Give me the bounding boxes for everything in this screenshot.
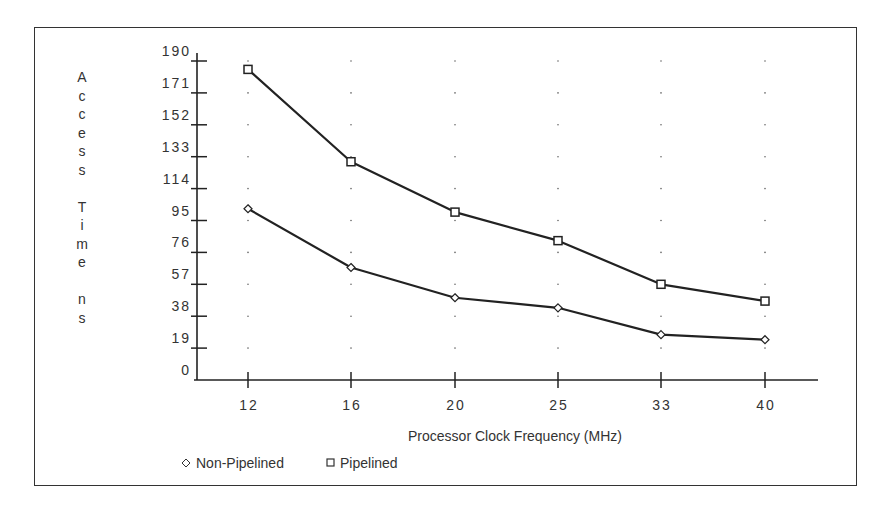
x-axis-ticks: 121620253340 xyxy=(239,372,776,413)
grid-dot xyxy=(247,220,249,222)
x-tick-label: 20 xyxy=(446,397,466,413)
y-label-char: s xyxy=(79,162,86,178)
grid-dot xyxy=(660,188,662,190)
grid-dot xyxy=(350,347,352,349)
grid-dot xyxy=(350,60,352,62)
grid-dot xyxy=(454,188,456,190)
grid-dot xyxy=(247,347,249,349)
x-tick-label: 16 xyxy=(342,397,362,413)
grid-dot xyxy=(350,252,352,254)
grid-dot xyxy=(764,124,766,126)
x-tick-label: 12 xyxy=(239,397,259,413)
y-tick-label: 152 xyxy=(162,107,191,123)
legend-label: Non-Pipelined xyxy=(196,455,284,471)
grid-dot xyxy=(764,315,766,317)
y-label-char: m xyxy=(76,236,88,252)
y-tick-label: 114 xyxy=(163,171,191,187)
y-label-char: e xyxy=(78,125,86,141)
y-label-char: e xyxy=(78,254,86,270)
axes xyxy=(194,53,818,380)
grid-dot xyxy=(350,220,352,222)
x-tick-label: 33 xyxy=(652,397,672,413)
y-tick-label: 171 xyxy=(162,75,191,91)
data-series xyxy=(244,65,769,343)
series-line xyxy=(248,209,765,340)
grid-dot xyxy=(454,252,456,254)
diamond-marker-icon xyxy=(657,331,665,339)
grid-dot xyxy=(247,156,249,158)
y-label-char: s xyxy=(79,310,86,326)
y-label-char: c xyxy=(79,88,86,104)
y-tick-label: 95 xyxy=(171,203,191,219)
grid-dot xyxy=(247,124,249,126)
grid-dot xyxy=(660,252,662,254)
y-axis-ticks: 01938577695114133152171190 xyxy=(162,43,207,378)
grid-dot xyxy=(350,315,352,317)
square-marker-icon xyxy=(347,158,355,166)
square-marker-icon xyxy=(657,280,665,288)
y-tick-label: 76 xyxy=(171,234,191,250)
grid-dot xyxy=(660,315,662,317)
grid-dot xyxy=(660,92,662,94)
grid-dot xyxy=(557,315,559,317)
grid-dot xyxy=(557,220,559,222)
x-axis-label: Processor Clock Frequency (MHz) xyxy=(408,428,622,444)
legend-item-non-pipelined: Non-Pipelined xyxy=(182,455,284,471)
y-label-char: i xyxy=(80,217,83,233)
grid-dot xyxy=(454,347,456,349)
grid-dot xyxy=(247,92,249,94)
grid-dot xyxy=(660,124,662,126)
diamond-marker-icon xyxy=(451,294,459,302)
series-line xyxy=(248,69,765,301)
grid-dot xyxy=(557,284,559,286)
grid-dot xyxy=(350,124,352,126)
grid-dot xyxy=(557,347,559,349)
grid-dot xyxy=(350,188,352,190)
y-tick-label: 19 xyxy=(171,330,191,346)
square-marker-icon xyxy=(554,237,562,245)
legend-label: Pipelined xyxy=(340,455,398,471)
grid-dot xyxy=(660,347,662,349)
grid-dot xyxy=(557,252,559,254)
y-label-char: s xyxy=(79,143,86,159)
legend-item-pipelined: Pipelined xyxy=(327,455,398,471)
y-tick-label: 133 xyxy=(162,139,191,155)
line-chart: 01938577695114133152171190 121620253340 … xyxy=(0,0,890,514)
grid-dot xyxy=(454,124,456,126)
y-label-char: n xyxy=(78,291,86,307)
grid-dot xyxy=(454,156,456,158)
grid-dot xyxy=(247,188,249,190)
y-label-char: c xyxy=(79,106,86,122)
diamond-marker-icon xyxy=(761,336,769,344)
x-tick-label: 40 xyxy=(756,397,776,413)
grid-dot xyxy=(247,252,249,254)
grid-dot xyxy=(764,252,766,254)
grid-dot xyxy=(764,220,766,222)
square-marker-icon xyxy=(451,208,459,216)
grid-dot xyxy=(454,315,456,317)
y-tick-label: 0 xyxy=(181,362,191,378)
grid-dot xyxy=(764,156,766,158)
y-label-char: A xyxy=(77,69,87,85)
dotted-grid xyxy=(247,60,766,349)
series-pipelined xyxy=(244,65,769,305)
y-tick-label: 57 xyxy=(171,266,191,282)
grid-dot xyxy=(557,60,559,62)
square-marker-icon xyxy=(327,459,334,466)
grid-dot xyxy=(660,156,662,158)
legend: Non-Pipelined Pipelined xyxy=(182,455,398,471)
y-axis-label: AccessTimens xyxy=(76,69,88,326)
grid-dot xyxy=(350,284,352,286)
grid-dot xyxy=(247,60,249,62)
square-marker-icon xyxy=(244,65,252,73)
y-tick-label: 38 xyxy=(171,298,191,314)
grid-dot xyxy=(660,220,662,222)
grid-dot xyxy=(557,92,559,94)
grid-dot xyxy=(454,92,456,94)
grid-dot xyxy=(764,188,766,190)
grid-dot xyxy=(247,284,249,286)
y-tick-label: 190 xyxy=(162,43,191,59)
diamond-marker-icon xyxy=(182,459,190,467)
grid-dot xyxy=(454,220,456,222)
grid-dot xyxy=(557,188,559,190)
